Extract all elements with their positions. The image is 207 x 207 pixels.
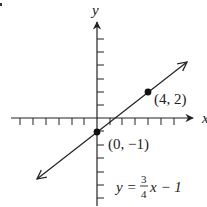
point-4-2	[145, 89, 152, 96]
svg-text:3: 3	[141, 173, 147, 185]
point-label-0-neg1: (0, −1)	[108, 136, 149, 153]
point-label-4-2: (4, 2)	[154, 91, 187, 108]
svg-text:y =: y =	[114, 179, 137, 195]
point-0-neg1	[94, 129, 101, 136]
corner-mark	[0, 3, 2, 6]
x-axis-label: x	[201, 110, 207, 126]
svg-text:x − 1: x − 1	[149, 179, 182, 195]
graph-canvas: x y (4, 2) (0, −1) y = 3 4 x −	[0, 0, 207, 207]
y-axis: y	[90, 2, 104, 206]
svg-text:4: 4	[141, 188, 147, 200]
y-axis-label: y	[90, 2, 99, 18]
equation-label: y = 3 4 x − 1	[114, 173, 182, 200]
